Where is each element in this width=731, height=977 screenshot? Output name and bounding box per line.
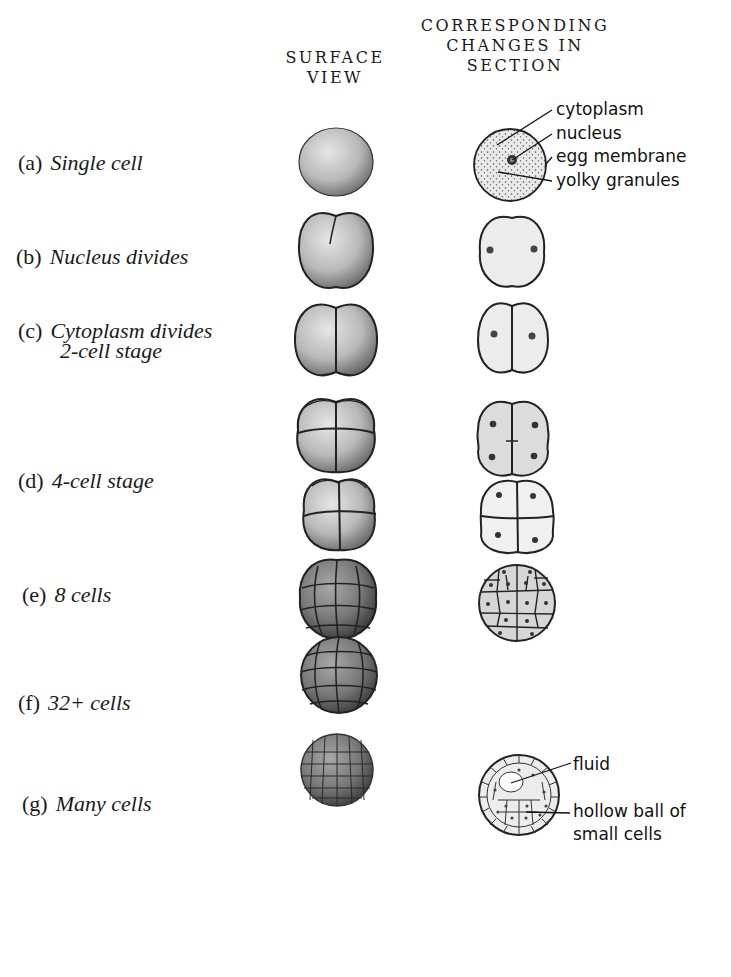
- surface-four-cell: [297, 399, 374, 472]
- surface-many-cells: [301, 637, 377, 713]
- section-many-cells: [479, 755, 571, 835]
- surface-eight-cell: [303, 479, 376, 550]
- surface-32-cells: [300, 559, 376, 638]
- surface-single-cell: [299, 128, 373, 196]
- section-nucleus-divides: [480, 217, 544, 287]
- section-four-cell: [477, 402, 548, 476]
- section-two-cell: [478, 303, 548, 372]
- blastocoel-fluid: [499, 772, 523, 792]
- section-eight-cell: [481, 481, 554, 553]
- section-32-cells: [479, 565, 555, 641]
- surface-two-cell: [295, 305, 377, 376]
- cleavage-drawings: [0, 0, 731, 977]
- section-single-cell: [474, 110, 552, 201]
- surface-blastula: [301, 734, 373, 806]
- surface-nucleus-divides: [299, 213, 373, 288]
